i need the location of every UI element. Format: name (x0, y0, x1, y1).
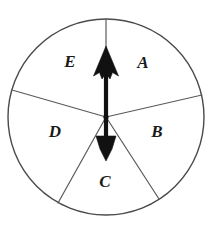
sector-label-c: C (99, 172, 111, 191)
sector-label-e: E (63, 52, 75, 71)
pointer-pivot[interactable] (103, 114, 108, 119)
sector-label-b: B (150, 122, 162, 141)
sector-label-d: D (48, 122, 61, 141)
spinner-diagram: A B C D E (0, 0, 213, 239)
spinner-figure: A B C D E (0, 0, 213, 239)
sector-label-a: A (136, 53, 148, 72)
